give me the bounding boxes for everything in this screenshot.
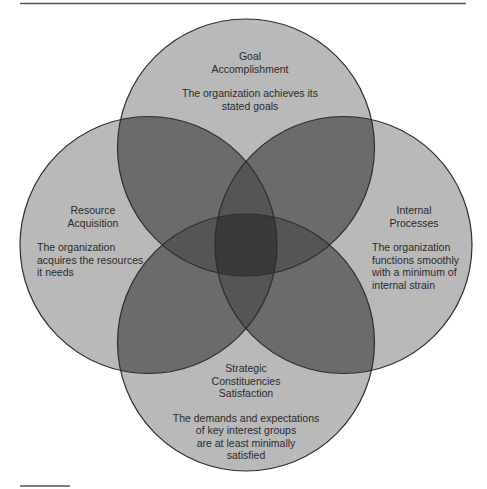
goal-description: The organization achieves its stated goa… xyxy=(170,87,330,112)
internal-desc-line-4: internal strain xyxy=(372,279,472,292)
strategic-title: Strategic Constituencies Satisfaction xyxy=(160,362,332,400)
goal-desc-line-2: stated goals xyxy=(170,100,330,113)
label-internal-processes: Internal Processes The organization func… xyxy=(372,204,472,291)
resource-desc-line-1: The organization xyxy=(37,241,157,254)
internal-desc-line-3: with a minimum of xyxy=(372,266,472,279)
strategic-title-line-1: Strategic xyxy=(160,362,332,375)
label-goal-accomplishment: Goal Accomplishment The organization ach… xyxy=(170,50,330,112)
resource-desc-line-2: acquires the resources xyxy=(37,254,157,267)
internal-desc-line-2: functions smoothly xyxy=(372,254,472,267)
internal-title-line-2: Processes xyxy=(356,217,472,230)
internal-description: The organization functions smoothly with… xyxy=(372,241,472,291)
internal-desc-line-1: The organization xyxy=(372,241,472,254)
strategic-desc-line-2: of key interest groups xyxy=(160,424,332,437)
strategic-title-line-3: Satisfaction xyxy=(160,387,332,400)
resource-title: Resource Acquisition xyxy=(29,204,157,229)
resource-desc-line-3: it needs xyxy=(37,266,157,279)
strategic-desc-line-1: The demands and expectations xyxy=(160,412,332,425)
resource-title-line-2: Acquisition xyxy=(29,217,157,230)
resource-description: The organization acquires the resources … xyxy=(37,241,157,279)
goal-title-line-1: Goal xyxy=(170,50,330,63)
strategic-title-line-2: Constituencies xyxy=(160,375,332,388)
resource-title-line-1: Resource xyxy=(29,204,157,217)
label-resource-acquisition: Resource Acquisition The organization ac… xyxy=(37,204,157,279)
strategic-desc-line-3: are at least minimally xyxy=(160,437,332,450)
strategic-desc-line-4: satisfied xyxy=(160,449,332,462)
goal-title-line-2: Accomplishment xyxy=(170,63,330,76)
internal-title-line-1: Internal xyxy=(356,204,472,217)
goal-desc-line-1: The organization achieves its xyxy=(170,87,330,100)
goal-title: Goal Accomplishment xyxy=(170,50,330,75)
label-strategic-constituencies: Strategic Constituencies Satisfaction Th… xyxy=(160,362,332,462)
internal-title: Internal Processes xyxy=(356,204,472,229)
strategic-description: The demands and expectations of key inte… xyxy=(160,412,332,462)
